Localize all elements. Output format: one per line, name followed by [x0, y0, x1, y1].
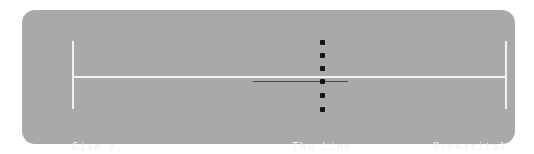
figure-canvas: Give a high-5 The Line of Sin Premarital… [0, 0, 534, 154]
label-right-endpoint: Premarital Sex [371, 111, 507, 154]
spectrum-card: Give a high-5 The Line of Sin Premarital… [22, 10, 515, 144]
marker-dot [320, 93, 325, 98]
label-left-line1: Give a [72, 139, 117, 153]
sin-range-segment [253, 81, 348, 82]
marker-dot [320, 53, 325, 58]
label-right-line1: Premarital [371, 139, 507, 153]
label-left-endpoint: Give a high-5 [72, 111, 117, 154]
marker-dot [320, 79, 325, 84]
spectrum-axis-line [72, 76, 507, 78]
line-of-sin-marker [320, 40, 325, 112]
marker-dot [320, 66, 325, 71]
axis-tick-left [72, 41, 74, 109]
axis-tick-right [505, 41, 507, 109]
marker-dot [320, 40, 325, 45]
